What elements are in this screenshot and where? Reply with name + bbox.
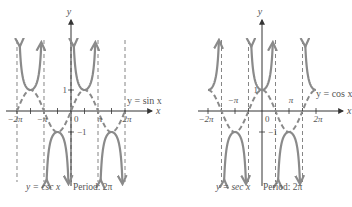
caption-function: y = sec x (215, 182, 251, 192)
y-tick-label: −1 (77, 127, 87, 137)
x-tick-label: −2π (198, 114, 214, 124)
x-axis-label: x (346, 105, 352, 116)
function-label: y = cos x (316, 88, 352, 99)
y-axis-label: y (257, 6, 263, 17)
x-tick-label: π (289, 95, 294, 105)
x-tick-label: −π (37, 114, 48, 124)
caption-period: Period: 2π (263, 182, 303, 192)
csc-branch (74, 44, 95, 90)
y-tick-label: 1 (254, 85, 259, 95)
sec-branch (278, 132, 300, 182)
x-axis-label: x (155, 105, 161, 116)
x-tick-label: −2π (7, 114, 23, 124)
y-tick-label: −1 (268, 127, 278, 137)
x-tick-label: 2π (313, 114, 323, 124)
csc-branch (47, 132, 69, 182)
y-tick-label: 1 (63, 85, 68, 95)
csc-branch (20, 44, 41, 90)
caption-period: Period: 2π (73, 182, 113, 192)
x-tick-label: π (98, 114, 103, 124)
x-tick-label: 2π (122, 114, 132, 124)
x-tick-label: −π (228, 95, 239, 105)
csc-branch (101, 132, 123, 182)
trig-reciprocal-figure: yx−2π−ππ2π1−10y = sin xy = csc xPeriod: … (0, 0, 352, 207)
csc-plot: yx−2π−ππ2π1−10y = sin xy = csc xPeriod: … (6, 6, 162, 192)
caption-function: y = csc x (25, 182, 61, 192)
origin-label: 0 (74, 114, 79, 124)
sec-branch (224, 132, 246, 182)
y-axis-label: y (66, 6, 72, 17)
origin-label: 0 (265, 114, 270, 124)
sec-plot: yx−2π−ππ2π1−10y = cos xy = sec xPeriod: … (198, 6, 352, 192)
sec-branch (305, 44, 316, 90)
sec-branch (208, 42, 219, 90)
function-label: y = sin x (127, 95, 162, 106)
